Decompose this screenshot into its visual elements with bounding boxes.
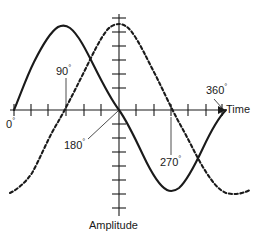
y-axis-label: Amplitude xyxy=(89,220,138,231)
annotation-270-degrees: 270° xyxy=(160,157,181,168)
sine-wave-diagram: Time 360° 0° 90° 180° 270° Amplitude xyxy=(0,0,261,235)
annotation-0-degrees: 0° xyxy=(6,119,15,130)
dashed-sine-curve xyxy=(10,24,250,194)
annotation-90-degrees: 90° xyxy=(56,66,71,77)
x-axis-label: Time xyxy=(226,104,250,115)
annotation-180-degrees: 180° xyxy=(64,140,85,151)
leader-line-180 xyxy=(88,111,118,139)
plot-canvas xyxy=(0,0,261,235)
annotation-360-degrees: 360° xyxy=(206,85,227,96)
